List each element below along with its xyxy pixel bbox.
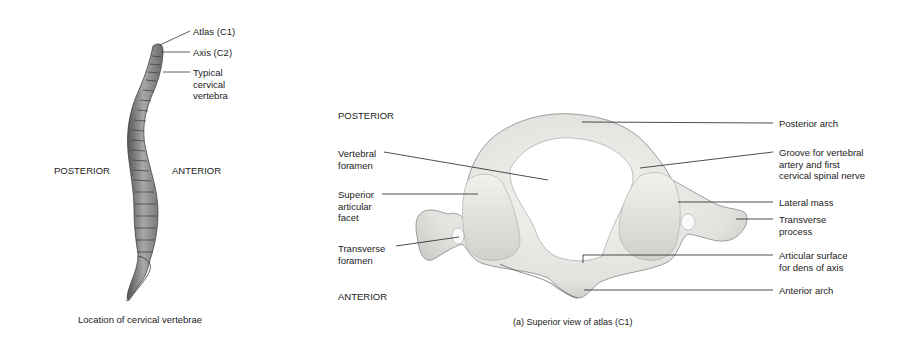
label-line: Typical <box>193 67 228 79</box>
label-posterior-right: POSTERIOR <box>338 110 394 122</box>
label-axis-c2: Axis (C2) <box>193 47 232 59</box>
spine-leader-lines <box>160 31 190 72</box>
label-articular-surface-dens: Articular surface for dens of axis <box>779 250 848 273</box>
label-line: foramen <box>338 160 376 172</box>
label-typical-cervical-vertebra: Typical cervical vertebra <box>193 67 228 102</box>
label-posterior-left: POSTERIOR <box>54 165 110 177</box>
label-line: cervical <box>193 79 228 91</box>
label-line: for dens of axis <box>779 262 848 274</box>
label-line: vertebra <box>193 90 228 102</box>
label-vertebral-foramen: Vertebral foramen <box>338 148 376 171</box>
caption-location-cervical-vertebrae: Location of cervical vertebrae <box>78 314 202 325</box>
spine-body <box>127 44 163 300</box>
diagram-artwork <box>0 0 903 356</box>
label-atlas-c1: Atlas (C1) <box>193 26 235 38</box>
label-groove-vertebral-artery: Groove for vertebral artery and first ce… <box>779 147 865 182</box>
label-line: Superior <box>338 189 374 201</box>
label-transverse-foramen: Transverse foramen <box>338 243 385 266</box>
label-superior-articular-facet: Superior articular facet <box>338 189 374 224</box>
left-transverse-foramen-shape <box>452 228 464 244</box>
right-transverse-foramen-shape <box>681 214 695 230</box>
label-anterior-arch: Anterior arch <box>779 285 833 297</box>
label-line: artery and first <box>779 159 865 171</box>
label-anterior-right: ANTERIOR <box>338 291 387 303</box>
label-line: foramen <box>338 255 385 267</box>
caption-superior-view-atlas: (a) Superior view of atlas (C1) <box>513 317 633 327</box>
label-line: Vertebral <box>338 148 376 160</box>
label-line: Transverse <box>779 214 826 226</box>
label-line: process <box>779 226 826 238</box>
label-line: Articular surface <box>779 250 848 262</box>
label-lateral-mass: Lateral mass <box>779 197 833 209</box>
label-line: articular <box>338 201 374 213</box>
vertebral-column-illustration <box>126 44 163 301</box>
label-posterior-arch: Posterior arch <box>779 118 838 130</box>
label-transverse-process: Transverse process <box>779 214 826 237</box>
label-line: Transverse <box>338 243 385 255</box>
label-line: cervical spinal nerve <box>779 170 865 182</box>
label-line: Groove for vertebral <box>779 147 865 159</box>
label-line: facet <box>338 212 374 224</box>
label-anterior-left: ANTERIOR <box>172 165 221 177</box>
atlas-bone-illustration <box>416 114 747 298</box>
